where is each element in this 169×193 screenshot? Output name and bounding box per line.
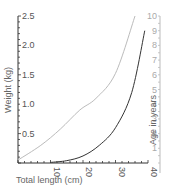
y-tick-label: 2.0 — [22, 40, 35, 50]
y-tick-label: 1.5 — [22, 70, 35, 80]
y-tick-label: 0.5 — [22, 129, 35, 139]
chart: 0.51.01.52.02.51020304012345678910 Weigh… — [0, 0, 169, 193]
axes: 0.51.01.52.02.51020304012345678910 — [18, 11, 160, 177]
y2-tick-label: 8 — [152, 40, 157, 50]
y2-tick-label: 6 — [152, 70, 157, 80]
y2-axis-title: Age in years — [148, 94, 158, 145]
y2-tick-label: 5 — [152, 85, 157, 95]
y2-tick-label: 9 — [152, 26, 157, 36]
y2-tick-label: 7 — [152, 55, 157, 65]
series-layer — [18, 16, 145, 162]
y-tick-label: 2.5 — [22, 11, 35, 21]
series-line-age — [18, 16, 135, 160]
x-tick-label: 20 — [84, 167, 94, 177]
y-tick-label: 1.0 — [22, 99, 35, 109]
x-axis-title: Total length (cm) — [16, 175, 83, 185]
x-tick-label: 40 — [149, 167, 159, 177]
y-axis-title: Weight (kg) — [3, 67, 13, 113]
x-tick-label: 30 — [117, 167, 127, 177]
y2-tick-label: 10 — [147, 11, 157, 21]
